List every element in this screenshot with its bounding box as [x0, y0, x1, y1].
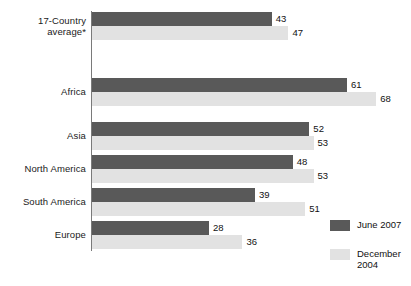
legend-item: December 2004 [330, 248, 411, 270]
bar [92, 235, 242, 249]
category-label: Asia [0, 130, 86, 141]
legend-swatch-june-2007 [330, 220, 350, 231]
chart-legend: June 2007 December 2004 [330, 219, 411, 283]
bar [92, 169, 314, 183]
bar [92, 155, 293, 169]
legend-swatch-december-2004 [330, 249, 350, 260]
bar-value-label: 61 [347, 78, 362, 92]
bar-value-label: 51 [305, 202, 320, 216]
bar-value-label: 68 [376, 92, 391, 106]
bar-value-label: 47 [288, 26, 303, 40]
bar [92, 92, 376, 106]
bar [92, 12, 272, 26]
legend-item: June 2007 [330, 219, 411, 235]
bar [92, 122, 309, 136]
category-label: Europe [0, 229, 86, 240]
category-label: North America [0, 163, 86, 174]
legend-label-june-2007: June 2007 [357, 219, 411, 230]
bar [92, 78, 347, 92]
bar-value-label: 39 [255, 188, 270, 202]
bar-value-label: 48 [293, 155, 308, 169]
bar [92, 188, 255, 202]
bar-value-label: 52 [309, 122, 324, 136]
category-label: South America [0, 196, 86, 207]
category-label: Africa [0, 86, 86, 97]
legend-label-december-2004: December 2004 [357, 248, 411, 270]
bar-value-label: 53 [314, 136, 329, 150]
bar-chart: 17-Countryaverage*4347Africa6168Asia5253… [0, 0, 411, 286]
bar [92, 136, 314, 150]
bar-value-label: 28 [209, 221, 224, 235]
bar [92, 26, 288, 40]
bar-value-label: 36 [242, 235, 257, 249]
category-label: 17-Countryaverage* [0, 15, 86, 37]
bar [92, 202, 305, 216]
bar [92, 221, 209, 235]
bar-value-label: 53 [314, 169, 329, 183]
bar-value-label: 43 [272, 12, 287, 26]
